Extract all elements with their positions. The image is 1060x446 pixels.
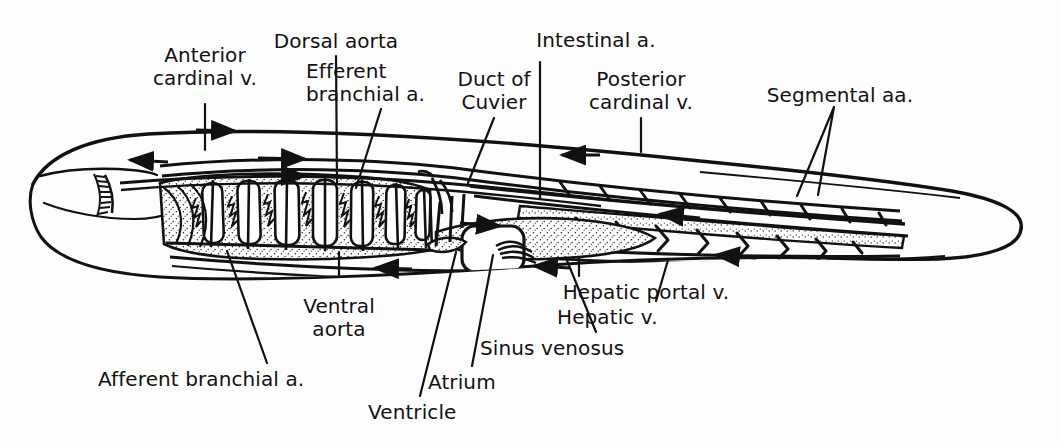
label-line: Ventral	[303, 295, 375, 318]
label-line: Ventricle	[368, 401, 457, 424]
label-line: Afferent branchial a.	[98, 368, 304, 391]
gill-slits-icon	[94, 174, 113, 216]
label-sinus-venosus: Sinus venosus	[480, 337, 624, 360]
label-line: Hepatic portal v.	[563, 281, 730, 304]
label-line: cardinal v.	[153, 67, 257, 90]
label-hepatic-portal-v: Hepatic portal v.	[563, 281, 730, 304]
label-line: Cuvier	[457, 91, 530, 114]
label-afferent-branchial-a: Afferent branchial a.	[98, 368, 304, 391]
label-line: Segmental aa.	[767, 84, 913, 107]
label-anterior-cardinal-v: Anterior cardinal v.	[153, 44, 257, 90]
label-ventral-aorta: Ventral aorta	[303, 295, 375, 341]
label-atrium: Atrium	[428, 371, 496, 394]
label-line: branchial a.	[306, 83, 425, 106]
label-line: Intestinal a.	[536, 29, 655, 52]
label-line: Efferent	[306, 60, 425, 83]
label-line: Posterior	[589, 68, 693, 91]
label-duct-of-cuvier: Duct of Cuvier	[457, 68, 530, 114]
label-intestinal-a: Intestinal a.	[536, 29, 655, 52]
ventricle-chamber	[462, 226, 524, 272]
label-line: Anterior	[153, 44, 257, 67]
label-dorsal-aorta: Dorsal aorta	[274, 30, 398, 53]
label-posterior-cardinal-v: Posterior cardinal v.	[589, 68, 693, 114]
label-line: Hepatic v.	[557, 306, 658, 329]
label-line: Sinus venosus	[480, 337, 624, 360]
label-line: aorta	[303, 318, 375, 341]
figure-canvas: Anterior cardinal v. Dorsal aorta Effere…	[0, 0, 1060, 446]
label-ventricle: Ventricle	[368, 401, 457, 424]
label-hepatic-v: Hepatic v.	[557, 306, 658, 329]
label-efferent-branchial-a: Efferent branchial a.	[306, 60, 425, 106]
label-line: cardinal v.	[589, 91, 693, 114]
label-segmental-aa: Segmental aa.	[767, 84, 913, 107]
label-line: Duct of	[457, 68, 530, 91]
label-line: Dorsal aorta	[274, 30, 398, 53]
label-line: Atrium	[428, 371, 496, 394]
